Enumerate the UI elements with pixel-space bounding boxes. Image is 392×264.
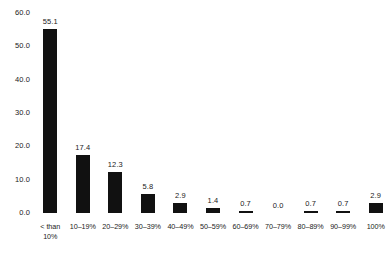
bar-value-label: 0.7	[305, 200, 316, 208]
bar	[304, 211, 318, 213]
bar	[141, 194, 155, 213]
bar-value-label: 2.9	[175, 192, 186, 200]
bar	[76, 155, 90, 213]
bar-value-label: 55.1	[43, 18, 58, 26]
y-axis-tick-label: 40.0	[0, 76, 30, 84]
plot-area: 55.1< than 10%17.410–19%12.320–29%5.830–…	[34, 0, 392, 264]
bar	[239, 211, 253, 213]
bar-value-label: 17.4	[75, 144, 90, 152]
y-axis-tick-label: 20.0	[0, 142, 30, 150]
x-axis-tick-label: 100%	[355, 222, 392, 232]
bar-group: 2.9100%	[359, 0, 392, 264]
y-axis-tick-label: 60.0	[0, 9, 30, 17]
bar-chart: 55.1< than 10%17.410–19%12.320–29%5.830–…	[0, 0, 392, 264]
bar	[108, 172, 122, 213]
bar-value-label: 0.7	[240, 200, 251, 208]
y-axis-tick-label: 0.0	[0, 209, 30, 217]
bar-value-label: 1.4	[208, 197, 219, 205]
y-axis-tick-label: 10.0	[0, 176, 30, 184]
bar-value-label: 0.7	[338, 200, 349, 208]
bar	[173, 203, 187, 213]
bar	[206, 208, 220, 213]
bar	[43, 29, 57, 213]
bar-value-label: 2.9	[370, 192, 381, 200]
bar-value-label: 0.0	[273, 202, 284, 210]
bar	[336, 211, 350, 213]
bar	[369, 203, 383, 213]
bar-value-label: 12.3	[108, 161, 123, 169]
y-axis-tick-label: 30.0	[0, 109, 30, 117]
y-axis-tick-label: 50.0	[0, 42, 30, 50]
bar-value-label: 5.8	[143, 183, 154, 191]
